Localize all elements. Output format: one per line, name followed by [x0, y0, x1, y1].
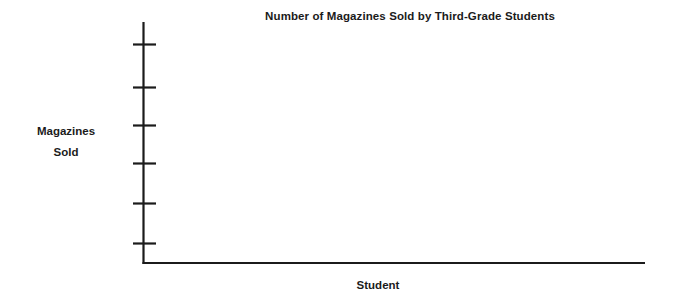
chart-screenshot: Number of Magazines Sold by Third-Grade …	[0, 0, 680, 294]
plot-area	[145, 22, 645, 264]
x-axis-label: Student	[318, 279, 438, 291]
